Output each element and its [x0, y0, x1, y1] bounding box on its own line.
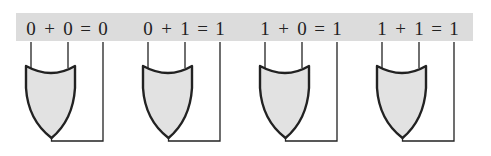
equals-sign: = [197, 18, 208, 39]
or-gate-icon [143, 66, 192, 138]
or-gate-icon [260, 66, 309, 138]
result-label: 1 [332, 18, 342, 39]
plus-sign: + [44, 18, 55, 39]
input-a-label: 0 [143, 18, 153, 39]
or-gate-icon [26, 66, 75, 138]
plus-sign: + [161, 18, 172, 39]
equals-sign: = [431, 18, 442, 39]
input-b-label: 1 [414, 18, 424, 39]
input-b-label: 0 [63, 18, 73, 39]
result-label: 0 [98, 18, 108, 39]
plus-sign: + [278, 18, 289, 39]
result-label: 1 [215, 18, 225, 39]
plus-sign: + [395, 18, 406, 39]
equals-sign: = [80, 18, 91, 39]
input-a-label: 0 [26, 18, 36, 39]
or-gate-icon [377, 66, 426, 138]
input-a-label: 1 [377, 18, 387, 39]
result-label: 1 [449, 18, 459, 39]
or-gate-diagram: 0+0=00+1=11+0=11+1=1 [0, 0, 491, 156]
input-a-label: 1 [260, 18, 270, 39]
input-b-label: 1 [180, 18, 190, 39]
input-b-label: 0 [297, 18, 307, 39]
equals-sign: = [314, 18, 325, 39]
